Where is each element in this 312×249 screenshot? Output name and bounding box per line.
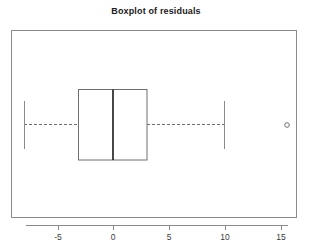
x-axis-labels: -5 0 5 10 15: [0, 0, 312, 249]
x-tick-label: 15: [276, 232, 285, 242]
x-tick-label: 0: [111, 232, 116, 242]
x-tick-label: 5: [167, 232, 172, 242]
boxplot-chart: Boxplot of residuals -5 0 5 10 15: [0, 0, 312, 249]
x-tick-label: 10: [220, 232, 229, 242]
x-tick-label: -5: [54, 232, 62, 242]
